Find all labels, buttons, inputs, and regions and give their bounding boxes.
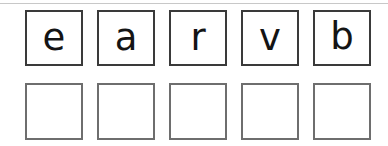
worksheet-canvas: e a r v b	[0, 0, 388, 146]
answer-boxes-row	[25, 83, 371, 140]
scrambled-letters-row: e a r v b	[25, 10, 371, 66]
answer-box[interactable]	[25, 83, 83, 140]
answer-box[interactable]	[169, 83, 227, 140]
answer-box[interactable]	[241, 83, 299, 140]
letter-tile[interactable]: a	[97, 10, 155, 66]
answer-box[interactable]	[97, 83, 155, 140]
answer-box[interactable]	[313, 83, 371, 140]
letter-glyph: b	[330, 18, 354, 55]
letter-glyph: e	[43, 19, 66, 56]
letter-tile[interactable]: e	[25, 10, 83, 66]
letter-glyph: v	[259, 19, 281, 56]
letter-glyph: a	[115, 19, 138, 56]
letter-tile[interactable]: v	[241, 10, 299, 66]
scan-artifact-line	[0, 3, 388, 4]
letter-tile[interactable]: r	[169, 10, 227, 66]
letter-tile[interactable]: b	[313, 10, 371, 66]
letter-glyph: r	[190, 19, 205, 56]
